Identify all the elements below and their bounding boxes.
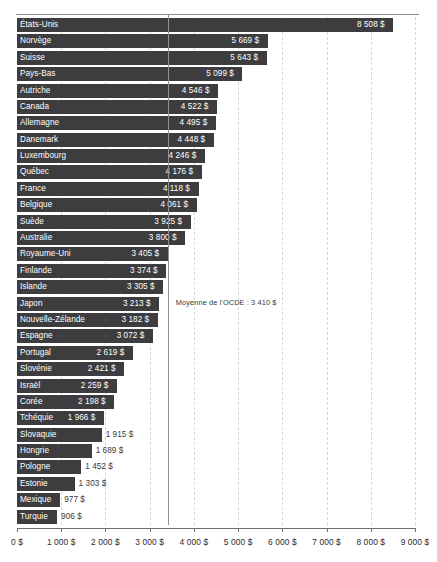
bar-category-label: Slovénie — [20, 362, 52, 376]
bar-value-label: 1 966 $ — [68, 411, 96, 425]
bar-row: Slovénie2 421 $ — [17, 362, 415, 376]
bar-row: Finlande3 374 $ — [17, 264, 415, 278]
bar-row: Québec4 176 $ — [17, 165, 415, 179]
bar-category-label: Luxembourg — [20, 149, 66, 163]
bar-value-label: 2 259 $ — [81, 379, 109, 393]
bar-value-label: 1 452 $ — [85, 460, 113, 474]
x-axis-tick-label: 5 000 $ — [224, 537, 253, 547]
x-axis-tick-label: 6 000 $ — [268, 537, 297, 547]
bar-category-label: Autriche — [20, 84, 50, 98]
bar-category-label: Portugal — [20, 346, 51, 360]
bar-category-label: Tchéquie — [20, 411, 53, 425]
bar-value-label: 4 448 $ — [178, 133, 206, 147]
bar-row: Norvège5 669 $ — [17, 34, 415, 48]
bar-category-label: Danemark — [20, 133, 58, 147]
bar-value-label: 3 213 $ — [123, 297, 151, 311]
bar-row: Nouvelle-Zélande3 182 $ — [17, 313, 415, 327]
x-axis-tick — [371, 528, 372, 532]
bar-value-label: 4 246 $ — [169, 149, 197, 163]
bar-category-label: Islande — [20, 280, 47, 294]
bar-row: États-Unis8 508 $ — [17, 18, 415, 32]
x-axis-tick — [282, 528, 283, 532]
bar-row: Estonie1 303 $ — [17, 477, 415, 491]
bar-value-label: 4 176 $ — [165, 165, 193, 179]
bar-category-label: Royaume-Uni — [20, 247, 71, 261]
bar-value-label: 3 405 $ — [131, 247, 159, 261]
x-axis-tick-label: 2 000 $ — [91, 537, 120, 547]
x-axis-tick — [61, 528, 62, 532]
x-axis-tick-label: 7 000 $ — [312, 537, 341, 547]
x-axis-tick-label: 1 000 $ — [47, 537, 76, 547]
bar-row: Australie3 800 $ — [17, 231, 415, 245]
gridline — [415, 17, 416, 525]
bar-row: Luxembourg4 246 $ — [17, 149, 415, 163]
bar-row: Pays-Bas5 099 $ — [17, 67, 415, 81]
bar-row: Royaume-Uni3 405 $ — [17, 247, 415, 261]
x-axis-tick — [150, 528, 151, 532]
bar-row: Canada4 522 $ — [17, 100, 415, 114]
x-axis-tick-label: 3 000 $ — [135, 537, 164, 547]
bar — [17, 18, 393, 32]
bar-value-label: 1 303 $ — [79, 477, 107, 491]
bar-category-label: Corée — [20, 395, 43, 409]
bar-value-label: 1 915 $ — [106, 428, 134, 442]
bar-category-label: Turquie — [20, 510, 48, 524]
bar-value-label: 3 305 $ — [127, 280, 155, 294]
bar-category-label: Mexique — [20, 493, 51, 507]
bar-row: Portugal2 619 $ — [17, 346, 415, 360]
x-axis-line — [17, 528, 415, 529]
bar-row: Tchéquie1 966 $ — [17, 411, 415, 425]
bar-category-label: Suisse — [20, 51, 45, 65]
bar-row: France4 118 $ — [17, 182, 415, 196]
bar-value-label: 977 $ — [64, 493, 85, 507]
bar-category-label: Nouvelle-Zélande — [20, 313, 85, 327]
bar-row: Belgique4 061 $ — [17, 198, 415, 212]
bar-chart: États-Unis8 508 $Norvège5 669 $Suisse5 6… — [0, 0, 437, 562]
bar-row: Suisse5 643 $ — [17, 51, 415, 65]
bar-category-label: Finlande — [20, 264, 52, 278]
x-axis-tick — [194, 528, 195, 532]
bar-row: Espagne3 072 $ — [17, 329, 415, 343]
ocde-average-label: Moyenne de l'OCDE : 3 410 $ — [176, 298, 277, 307]
top-divider — [16, 14, 419, 15]
bar-value-label: 906 $ — [61, 510, 82, 524]
bar-value-label: 3 374 $ — [130, 264, 158, 278]
ocde-average-line — [168, 14, 169, 525]
bar-row: Mexique977 $ — [17, 493, 415, 507]
bar-rows: États-Unis8 508 $Norvège5 669 $Suisse5 6… — [17, 17, 415, 525]
bar-value-label: 4 522 $ — [181, 100, 209, 114]
bar-category-label: Canada — [20, 100, 49, 114]
bar-row: Slovaquie1 915 $ — [17, 428, 415, 442]
bar-value-label: 5 643 $ — [230, 51, 258, 65]
bar-value-label: 4 546 $ — [182, 84, 210, 98]
bar-value-label: 8 508 $ — [357, 18, 385, 32]
x-axis-tick — [327, 528, 328, 532]
x-axis-tick-label: 8 000 $ — [356, 537, 385, 547]
bar-value-label: 4 495 $ — [180, 116, 208, 130]
x-axis-tick-label: 0 $ — [11, 537, 23, 547]
bar-category-label: Pays-Bas — [20, 67, 55, 81]
bar — [17, 34, 268, 48]
x-axis-tick-label: 4 000 $ — [180, 537, 209, 547]
bar-category-label: Suède — [20, 215, 44, 229]
bar-category-label: Allemagne — [20, 116, 59, 130]
bar-row: Danemark4 448 $ — [17, 133, 415, 147]
bar-value-label: 3 072 $ — [117, 329, 145, 343]
bar-value-label: 3 800 $ — [149, 231, 177, 245]
bar-value-label: 5 669 $ — [231, 34, 259, 48]
bar-value-label: 2 198 $ — [78, 395, 106, 409]
plot-area: États-Unis8 508 $Norvège5 669 $Suisse5 6… — [17, 17, 415, 525]
bar-category-label: Hongrie — [20, 444, 49, 458]
x-axis-tick — [17, 528, 18, 532]
bar-value-label: 2 619 $ — [97, 346, 125, 360]
bar-category-label: France — [20, 182, 46, 196]
bar-row: Islande3 305 $ — [17, 280, 415, 294]
bar-category-label: Japon — [20, 297, 43, 311]
bar-row: Israël2 259 $ — [17, 379, 415, 393]
bar-value-label: 1 689 $ — [96, 444, 124, 458]
bar-category-label: Québec — [20, 165, 49, 179]
bar-category-label: Pologne — [20, 460, 50, 474]
bar-value-label: 3 182 $ — [122, 313, 150, 327]
bar-row: Allemagne4 495 $ — [17, 116, 415, 130]
bar-row: Hongrie1 689 $ — [17, 444, 415, 458]
